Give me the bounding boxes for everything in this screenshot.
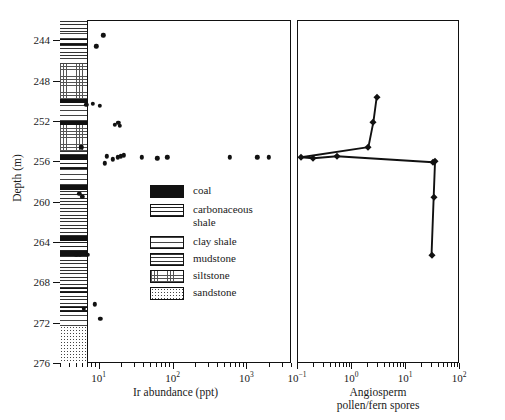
ir-axis-tick: [121, 363, 122, 367]
pollen-axis-tick: [397, 363, 398, 367]
lithology-bed-carbonaceous-shale: [60, 240, 88, 252]
depth-tick-label: 268: [24, 277, 50, 288]
ir-axis-tick: [76, 363, 77, 367]
lithology-bed-clay-shale: [60, 169, 88, 185]
legend-label: coal: [193, 184, 211, 197]
legend-label: siltstone: [193, 269, 230, 282]
depth-tick-label: 264: [24, 236, 50, 247]
ir-axis-tick: [239, 363, 240, 367]
pollen-axis-tick: [403, 363, 404, 367]
pollen-axis-tick: [389, 363, 390, 367]
depth-tick: [53, 242, 60, 243]
legend-swatch-coal: [150, 185, 184, 198]
legend-item-siltstone: siltstone: [150, 269, 267, 283]
ir-axis-tick: [82, 363, 83, 367]
ir-axis-tick-label: 102: [165, 370, 180, 384]
ir-axis-tick-label-exponent: 1: [102, 370, 106, 379]
pollen-axis-tick: [330, 363, 331, 367]
lithology-bed-mudstone: [60, 20, 88, 32]
legend-label: sandstone: [193, 286, 236, 299]
pollen-axis-tick: [335, 363, 336, 367]
ir-axis-tick: [235, 363, 236, 367]
ir-axis-tick: [150, 363, 151, 367]
lithology-bed-carbonaceous-shale: [60, 159, 88, 169]
pollen-axis-tick-label: 100: [344, 370, 359, 384]
pollen-axis-tick-label: 101: [398, 370, 413, 384]
pollen-axis-tick: [367, 363, 368, 367]
legend-swatch-siltstone: [150, 270, 184, 283]
lithology-bed-siltstone: [60, 64, 88, 98]
pollen-axis-tick: [351, 363, 352, 369]
ir-axis-tick: [99, 363, 100, 369]
ir-axis-tick: [282, 363, 283, 367]
ir-axis-tick: [230, 363, 231, 367]
legend-label: mudstone: [193, 252, 236, 265]
pollen-axis-tick: [459, 363, 460, 369]
ir-axis-tick: [169, 363, 170, 367]
ir-axis-tick-label-exponent: 3: [250, 370, 254, 379]
figure-canvas: 244248252256260264268272276 Depth (m) 10…: [0, 0, 505, 420]
ir-axis-tick-label-exponent: 2: [176, 370, 180, 379]
pollen-axis-tick-label-exponent: −1: [299, 370, 307, 379]
lithology-bed-mudstone: [60, 256, 88, 288]
legend-item-coal: coal: [150, 184, 267, 198]
ir-axis-tick: [134, 363, 135, 367]
pollen-axis-tick: [343, 363, 344, 367]
pollen-axis-title-line2: pollen/fern spores: [297, 399, 459, 412]
legend-item-carbonaceous-shale: carbonaceous shale: [150, 203, 267, 228]
pollen-axis-tick: [438, 363, 439, 367]
ir-axis-tick: [60, 363, 61, 367]
ir-axis-tick-label: 103: [239, 370, 254, 384]
depth-axis-title: Depth (m): [11, 133, 23, 223]
pollen-axis-tick: [447, 363, 448, 367]
ir-axis-title: Ir abundance (ppt): [60, 386, 291, 398]
pollen-axis-tick: [393, 363, 394, 367]
pollen-axis-tick: [405, 363, 406, 369]
depth-tick: [53, 81, 60, 82]
pollen-axis-tick: [313, 363, 314, 367]
ir-axis-tick: [291, 363, 292, 367]
legend-swatch-carbonaceous-shale: [150, 204, 184, 217]
depth-tick-label: 256: [24, 156, 50, 167]
depth-tick-label: 272: [24, 317, 50, 328]
ir-axis-tick-label-base: 10: [91, 372, 102, 384]
ir-axis-tick: [246, 363, 247, 369]
legend-swatch-clay-shale: [150, 236, 184, 249]
depth-tick: [53, 121, 60, 122]
pollen-ratio-panel: [297, 20, 459, 363]
lithology-bed-siltstone: [60, 125, 88, 151]
lithology-bed-sandstone: [60, 326, 88, 363]
legend-item-sandstone: sandstone: [150, 286, 267, 300]
ir-axis-tick: [217, 363, 218, 367]
pollen-axis-tick: [323, 363, 324, 367]
legend-item-clay-shale: clay shale: [150, 235, 267, 249]
depth-tick-label: 244: [24, 35, 50, 46]
ir-axis-tick: [165, 363, 166, 367]
depth-tick: [53, 282, 60, 283]
pollen-axis-tick: [454, 363, 455, 367]
depth-tick-label: 252: [24, 115, 50, 126]
depth-tick-label: 248: [24, 75, 50, 86]
ir-axis-tick-label: 101: [91, 370, 106, 384]
depth-tick-label: 260: [24, 196, 50, 207]
lithology-bed-clay-shale: [60, 56, 88, 64]
pollen-axis-tick: [443, 363, 444, 367]
legend-label: clay shale: [193, 235, 237, 248]
ir-axis-tick: [243, 363, 244, 367]
depth-tick: [53, 323, 60, 324]
pollen-axis-tick: [297, 363, 298, 369]
ir-axis-tick: [91, 363, 92, 367]
legend-swatch-sandstone: [150, 287, 184, 300]
ir-axis-tick: [87, 363, 88, 367]
pollen-axis-tick-label-base: 10: [344, 372, 355, 384]
ir-axis-tick: [95, 363, 96, 367]
ir-axis-tick: [269, 363, 270, 367]
pollen-axis-tick-label-base: 10: [452, 372, 463, 384]
ir-axis-tick: [208, 363, 209, 367]
depth-tick: [53, 202, 60, 203]
pollen-axis-tick: [384, 363, 385, 367]
pollen-axis-tick-label-base: 10: [288, 372, 299, 384]
pollen-axis-tick: [400, 363, 401, 367]
ir-axis-tick: [156, 363, 157, 367]
pollen-axis-tick: [346, 363, 347, 367]
